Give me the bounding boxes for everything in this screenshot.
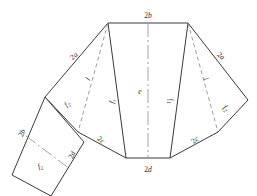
label-center-e: e <box>138 88 141 96</box>
label-bottom-edge: 2d <box>144 166 152 174</box>
label-top-edge: 2b <box>144 12 152 20</box>
diagram-canvas: 2b2d2a2a2c2c2b2dllef1f1f2f2f2 <box>0 0 257 196</box>
